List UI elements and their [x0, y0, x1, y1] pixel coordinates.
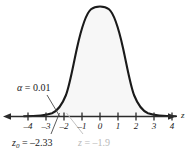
- z-value-equals: =: [82, 137, 93, 148]
- tick-label-1: 1: [111, 121, 125, 131]
- tick-label--2: –2: [57, 121, 71, 131]
- tick-label-2: 2: [129, 121, 143, 131]
- z0-annotation: z0 = –2.33: [12, 137, 53, 150]
- z-value-annotation: z = –1.9: [78, 137, 110, 148]
- tick-label-3: 3: [147, 121, 161, 131]
- z0-value: –2.33: [30, 137, 53, 148]
- normal-distribution-figure: α = 0.01 z0 = –2.33 z = –1.9 –4 –3 –2 –1…: [0, 0, 195, 161]
- alpha-equals: =: [22, 82, 33, 93]
- alpha-annotation: α = 0.01: [17, 82, 50, 93]
- tick-label--4: –4: [21, 121, 35, 131]
- tick-label--3: –3: [39, 121, 53, 131]
- z-axis-label: z: [181, 110, 185, 120]
- tick-label-0: 0: [93, 121, 107, 131]
- tick-label--1: –1: [75, 121, 89, 131]
- z0-equals: =: [19, 137, 30, 148]
- tick-label-4: 4: [165, 121, 179, 131]
- axis-arrow-left: [3, 113, 11, 119]
- z-value-number: –1.9: [93, 137, 111, 148]
- alpha-value: 0.01: [33, 82, 51, 93]
